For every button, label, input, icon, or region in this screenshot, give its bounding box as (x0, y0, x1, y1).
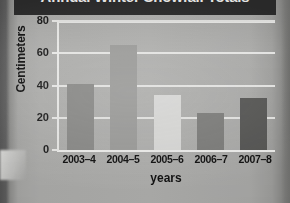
bar (197, 113, 224, 150)
x-axis-line (57, 150, 275, 152)
y-axis-title: Centimeters (14, 14, 28, 104)
x-axis-tick-label: 2005–6 (145, 153, 189, 169)
bar (240, 98, 267, 150)
x-axis-tick-label: 2007–8 (233, 153, 277, 169)
y-axis-tick (52, 149, 59, 151)
x-axis-tick-label: 2004–5 (101, 153, 145, 169)
bar-series (59, 21, 275, 150)
chart-screenshot: Annual Winter Snowfall Totals 020406080 … (0, 0, 290, 203)
y-axis-tick-label: 0 (20, 143, 49, 155)
y-axis-tick (52, 52, 59, 54)
bar (67, 84, 94, 150)
x-axis-title: years (57, 171, 275, 185)
x-axis-tick-label: 2006–7 (189, 153, 233, 169)
bar (110, 45, 137, 150)
x-axis-tick-label: 2003–4 (57, 153, 101, 169)
y-axis-tick (52, 117, 59, 119)
chart-title: Annual Winter Snowfall Totals (14, 0, 276, 5)
bar (154, 95, 181, 150)
y-axis-tick-label: 20 (20, 111, 49, 123)
chart-title-band: Annual Winter Snowfall Totals (14, 0, 276, 15)
x-axis-tick-labels: 2003–42004–52005–62006–72007–8 (57, 153, 277, 169)
y-axis-tick (52, 85, 59, 87)
photo-right-edge (281, 0, 290, 203)
y-axis-tick (52, 20, 59, 22)
